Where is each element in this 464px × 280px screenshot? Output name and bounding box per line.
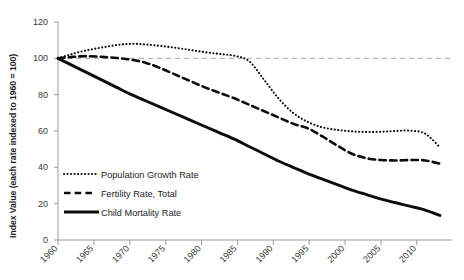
y-tick-label: 0 xyxy=(43,235,48,245)
y-tick-label: 80 xyxy=(38,90,48,100)
y-axis-title: Index Value (each rate indexed to 1960 =… xyxy=(8,54,18,238)
y-tick-label: 40 xyxy=(38,162,48,172)
y-tick-label: 100 xyxy=(33,53,48,63)
legend-label-population-growth-rate: Population Growth Rate xyxy=(101,170,199,180)
legend-label-child-mortality-rate: Child Mortality Rate xyxy=(101,208,181,218)
legend-label-fertility-rate-total: Fertility Rate, Total xyxy=(101,189,177,199)
y-tick-label: 20 xyxy=(38,199,48,209)
chart-background xyxy=(0,0,464,280)
chart-container: Index Value (each rate indexed to 1960 =… xyxy=(0,0,464,280)
line-chart: Index Value (each rate indexed to 1960 =… xyxy=(0,0,464,280)
y-tick-label: 60 xyxy=(38,126,48,136)
y-tick-label: 120 xyxy=(33,17,48,27)
